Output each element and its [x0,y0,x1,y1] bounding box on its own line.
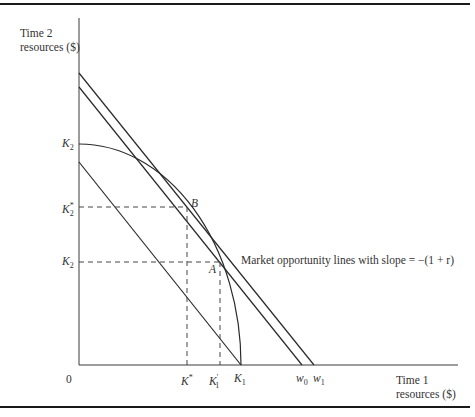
x-tick-k1-prime: K'1 [209,371,219,393]
x-tick-w0: w0 [296,371,308,390]
x-tick-k-star: K* [181,371,193,388]
market-line-w0 [79,87,302,365]
origin-label: 0 [66,372,72,386]
y-tick-k2-star: K*2 [62,199,74,221]
x-tick-k1: K1 [234,371,246,390]
production-opportunity-curve [79,144,241,365]
y-tick-k2-top: K2 [62,136,74,155]
x-tick-w1: w1 [313,371,325,390]
point-a-label: A [209,262,216,276]
y-tick-k2-bottom: K2 [62,254,74,273]
market-line-k1 [79,162,241,365]
point-b-label: B [191,196,198,210]
market-lines-annotation: Market opportunity lines with slope = −(… [241,253,454,267]
market-line-w1 [79,73,314,365]
